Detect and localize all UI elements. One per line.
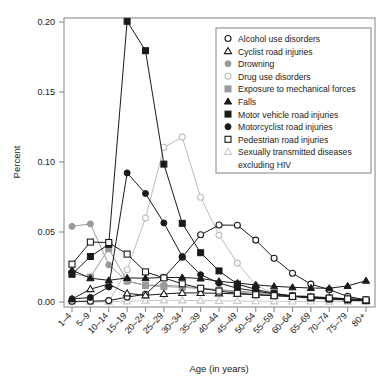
marker-filled-circle <box>198 272 204 278</box>
legend-marker <box>225 61 231 67</box>
marker-open-square <box>290 293 296 299</box>
marker-filled-circle <box>69 296 75 302</box>
marker-open-triangle <box>124 290 131 296</box>
legend-label: Motor vehicle road injuries <box>238 110 338 120</box>
chart-legend: Alcohol use disordersCyclist road injuri… <box>216 28 371 173</box>
marker-open-square <box>253 292 259 298</box>
x-axis-title: Age (in years) <box>189 363 248 374</box>
legend-label: Alcohol use disorders <box>238 34 320 44</box>
marker-open-square <box>271 293 277 299</box>
marker-open-circle <box>290 270 296 276</box>
marker-filled-circle <box>124 170 130 176</box>
legend-label: Sexually transmitted diseases <box>238 147 352 157</box>
marker-open-triangle <box>179 297 186 303</box>
y-tick-label: 0.20 <box>37 17 55 27</box>
y-axis-ticks: 0.000.050.100.150.20 <box>37 17 64 307</box>
marker-open-square <box>106 240 112 246</box>
legend-label: Exposure to mechanical forces <box>238 84 356 94</box>
legend-label: Motorcyclist road injuries <box>238 122 333 132</box>
marker-open-square <box>179 281 185 287</box>
x-tick-label: 1–4 <box>56 311 74 329</box>
marker-open-square <box>234 290 240 296</box>
legend-label: excluding HIV <box>238 160 291 170</box>
marker-open-square <box>216 288 222 294</box>
marker-filled-circle-gray <box>87 221 93 227</box>
marker-filled-circle <box>216 280 222 286</box>
marker-open-square <box>143 269 149 275</box>
legend-marker <box>225 136 231 142</box>
marker-open-square <box>124 251 130 257</box>
marker-open-square <box>161 275 167 281</box>
legend-marker <box>225 36 231 42</box>
marker-filled-circle <box>87 295 93 301</box>
marker-filled-triangle <box>362 277 369 283</box>
marker-filled-square <box>87 254 93 260</box>
marker-filled-square <box>216 268 222 274</box>
marker-open-square <box>69 261 75 267</box>
marker-open-triangle <box>160 297 167 303</box>
y-axis-title: Percent <box>11 145 22 178</box>
chart-figure: 0.000.050.100.150.20 1–45–910–1415–1920–… <box>0 0 385 389</box>
y-tick-label: 0.10 <box>37 157 55 167</box>
legend-label: Drowning <box>238 59 275 69</box>
marker-open-circle-gray <box>179 134 185 140</box>
marker-filled-circle-gray <box>106 262 112 268</box>
marker-filled-square-gray <box>143 282 149 288</box>
marker-open-circle <box>106 298 112 304</box>
marker-filled-square <box>161 161 167 167</box>
marker-open-triangle <box>252 298 259 304</box>
marker-open-square <box>345 296 351 302</box>
marker-filled-circle <box>179 254 185 260</box>
y-tick-label: 0.00 <box>37 297 55 307</box>
x-tick-label: 75–79 <box>325 311 349 336</box>
x-tick-label: 80+ <box>350 311 368 329</box>
x-axis-ticks: 1–45–910–1415–1920–2425–2930–3435–3940–4… <box>56 307 368 336</box>
marker-filled-square <box>198 250 204 256</box>
marker-open-circle <box>253 237 259 243</box>
marker-filled-circle <box>143 191 149 197</box>
marker-filled-circle <box>161 220 167 226</box>
marker-open-circle-gray <box>216 232 222 238</box>
legend-label: Falls <box>238 97 256 107</box>
y-tick-label: 0.15 <box>37 87 55 97</box>
marker-filled-square <box>179 220 185 226</box>
marker-filled-square <box>69 271 75 277</box>
line-chart: 0.000.050.100.150.20 1–45–910–1415–1920–… <box>0 0 385 389</box>
marker-open-circle <box>216 222 222 228</box>
marker-filled-square <box>143 48 149 54</box>
legend-label: Cyclist road injuries <box>238 47 313 57</box>
marker-open-triangle <box>234 297 241 303</box>
marker-filled-square-gray <box>161 284 167 290</box>
legend-label: Pedestrian road injuries <box>238 135 328 145</box>
marker-open-square <box>198 285 204 291</box>
marker-open-circle <box>271 255 277 261</box>
marker-open-circle-gray <box>198 194 204 200</box>
marker-open-square <box>326 295 332 301</box>
legend-label: Drug use disorders <box>238 72 311 82</box>
legend-marker <box>225 124 231 130</box>
marker-filled-circle <box>106 284 112 290</box>
marker-filled-square <box>124 18 130 24</box>
marker-open-circle <box>198 232 204 238</box>
marker-open-circle-gray <box>234 260 240 266</box>
axis-titles: PercentAge (in years) <box>11 145 249 374</box>
marker-open-square <box>308 294 314 300</box>
legend-marker <box>225 86 231 92</box>
marker-filled-triangle <box>179 274 186 280</box>
legend-marker <box>225 73 231 79</box>
marker-open-circle-gray <box>143 215 149 221</box>
marker-open-square <box>87 239 93 245</box>
legend-marker <box>225 111 231 117</box>
marker-open-square <box>363 297 369 303</box>
y-tick-label: 0.05 <box>37 227 55 237</box>
marker-open-circle-gray <box>124 267 130 273</box>
marker-open-circle <box>234 222 240 228</box>
marker-filled-circle-gray <box>69 223 75 229</box>
